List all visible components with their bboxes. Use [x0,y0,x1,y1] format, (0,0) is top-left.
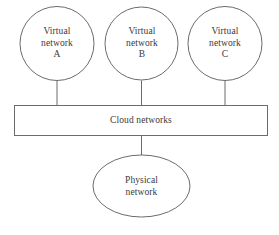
node-physical-network[interactable] [93,155,190,217]
node-virtual-network-c[interactable] [188,7,262,81]
node-cloud-networks[interactable] [15,106,268,136]
network-diagram: Virtual network A Virtual network B Virt… [0,0,279,235]
node-virtual-network-a[interactable] [20,7,94,81]
diagram-canvas [0,0,279,235]
node-virtual-network-b[interactable] [105,7,178,80]
